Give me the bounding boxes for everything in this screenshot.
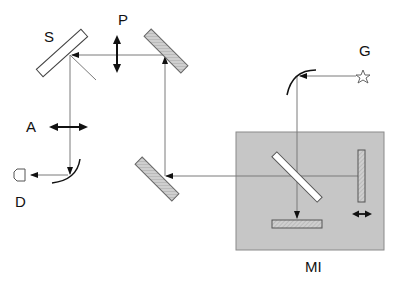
label-d: D [15,194,26,209]
label-mi: MI [305,259,322,274]
optical-diagram: S P G A D MI [0,0,396,284]
mi-fixed-mirror [272,220,322,228]
curved-mirror-source [287,70,316,95]
star-icon [356,70,370,83]
detector-icon [14,169,25,181]
label-s: S [44,29,54,44]
label-p: P [118,12,128,27]
curved-mirror-detector [52,159,80,183]
mirror-lower [135,157,179,201]
polarizer-arrow-icon [113,35,121,73]
analyzer-arrow-icon [49,123,88,131]
mirror-upper [144,29,188,73]
label-a: A [26,119,36,134]
diagram-canvas [0,0,396,284]
label-g: G [359,43,371,58]
mi-movable-mirror [358,150,365,202]
